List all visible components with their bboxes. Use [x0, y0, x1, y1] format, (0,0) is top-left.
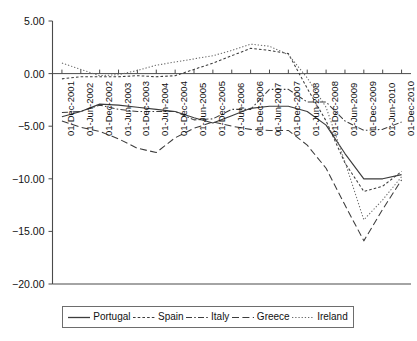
legend-label: Italy — [211, 312, 229, 322]
x-tick-label: 01-Jun-2004 — [160, 82, 170, 135]
y-tick-label: −10.00 — [0, 174, 45, 185]
x-tick-label: 01-Dec-2001 — [66, 81, 76, 136]
x-tick-label: 01-Dec-2002 — [104, 81, 114, 136]
x-tick-label: 01-Dec-2005 — [217, 81, 227, 136]
x-tick-label: 01-Dec-2008 — [330, 81, 340, 136]
legend-item-spain[interactable]: Spain — [133, 312, 184, 322]
x-tick-label: 01-Dec-2003 — [141, 81, 151, 136]
chart-axes — [49, 21, 412, 284]
x-tick-label: 01-Dec-2004 — [179, 81, 189, 136]
chart-legend: PortugalSpainItalyGreeceIreland — [62, 306, 354, 328]
x-tick-label: 01-Jun-2003 — [123, 82, 133, 135]
x-tick-label: 01-Jun-2010 — [387, 82, 397, 135]
x-tick-label: 01-Dec-2009 — [368, 81, 378, 136]
x-tick-label: 01-Jun-2002 — [85, 82, 95, 135]
x-tick-label: 01-Dec-2010 — [406, 81, 416, 136]
x-tick-label: 01-Dec-2006 — [255, 81, 265, 136]
y-tick-label: −20.00 — [0, 279, 45, 290]
x-tick-label: 01-Jun-2005 — [198, 82, 208, 135]
legend-swatch-dashed — [232, 313, 254, 322]
legend-item-italy[interactable]: Italy — [186, 312, 229, 322]
legend-label: Greece — [257, 312, 290, 322]
x-tick-label: 01-Jun-2006 — [236, 82, 246, 135]
y-tick-label: 5.00 — [0, 16, 45, 27]
y-tick-label: −15.00 — [0, 226, 45, 237]
legend-label: Portugal — [93, 312, 130, 322]
legend-item-ireland[interactable]: Ireland — [292, 312, 348, 322]
line-chart-plot — [0, 0, 417, 341]
legend-item-greece[interactable]: Greece — [232, 312, 290, 322]
legend-swatch-dotted — [133, 313, 155, 322]
y-tick-label: 0.00 — [0, 69, 45, 80]
legend-swatch-finedot — [292, 313, 314, 322]
x-tick-label: 01-Jun-2009 — [349, 82, 359, 135]
legend-label: Ireland — [317, 312, 348, 322]
x-tick-label: 01-Dec-2007 — [292, 81, 302, 136]
legend-swatch-dashdot — [186, 313, 208, 322]
legend-swatch-solid — [68, 313, 90, 322]
legend-label: Spain — [158, 312, 184, 322]
legend-item-portugal[interactable]: Portugal — [68, 312, 130, 322]
x-tick-label: 01-Jun-2007 — [273, 82, 283, 135]
x-tick-label: 01-Jun-2008 — [311, 82, 321, 135]
y-tick-label: −5.00 — [0, 121, 45, 132]
chart-container: 5.000.00−5.00−10.00−15.00−20.00 01-Dec-2… — [0, 0, 417, 341]
series-line-greece — [62, 121, 402, 241]
